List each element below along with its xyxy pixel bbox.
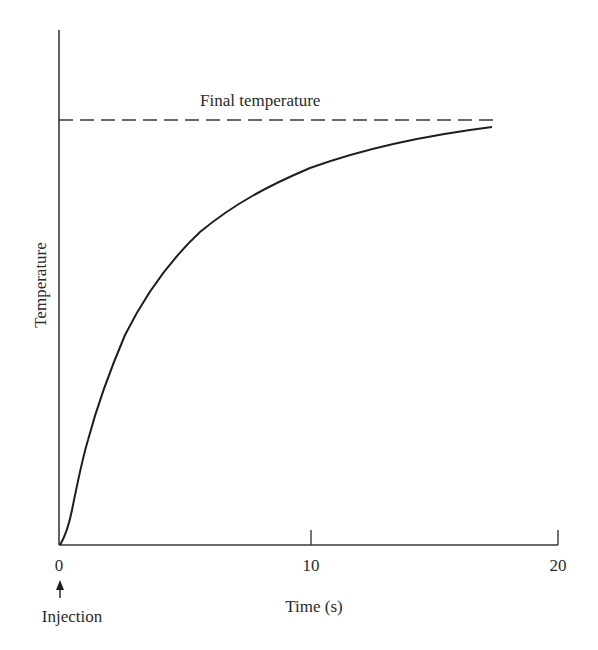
injection-arrow-icon xyxy=(56,580,64,598)
y-axis-label: Temperature xyxy=(31,242,50,328)
x-axis-label: Time (s) xyxy=(285,597,342,616)
x-tick-label-0: 0 xyxy=(55,556,64,575)
chart: Final temperature Temperature 0 10 20 Ti… xyxy=(0,0,598,650)
x-tick-label-20: 20 xyxy=(550,556,567,575)
final-temperature-label: Final temperature xyxy=(200,91,320,110)
injection-label: Injection xyxy=(42,607,103,626)
temperature-curve xyxy=(60,127,492,545)
x-tick-label-10: 10 xyxy=(303,556,320,575)
